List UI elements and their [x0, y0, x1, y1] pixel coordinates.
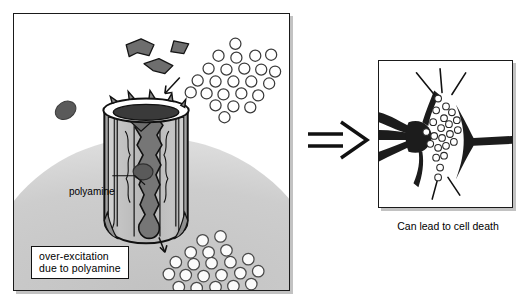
- over-excitation-line-2: due to polyamine: [39, 262, 121, 274]
- channel-opening: [113, 104, 179, 120]
- ion-influx-arrow: [165, 78, 180, 94]
- figure-root: polyamine over-excitation due to polyami…: [0, 0, 529, 304]
- neuron-scene: [379, 61, 512, 207]
- extracellular-ion-cluster: [185, 38, 281, 123]
- polyamine-label: polyamine: [69, 186, 115, 197]
- polyamine-molecule: [52, 97, 79, 123]
- neuron-panel: [378, 60, 513, 208]
- ion-channel-membrane-panel: polyamine over-excitation due to polyami…: [13, 13, 290, 291]
- double-line-implies-arrow: [305, 118, 371, 162]
- glutamate-molecules: [126, 39, 189, 74]
- over-excitation-line-1: over-excitation: [39, 250, 121, 262]
- cell-death-caption: Can lead to cell death: [378, 220, 518, 232]
- over-excitation-caption-box: over-excitation due to polyamine: [31, 246, 129, 279]
